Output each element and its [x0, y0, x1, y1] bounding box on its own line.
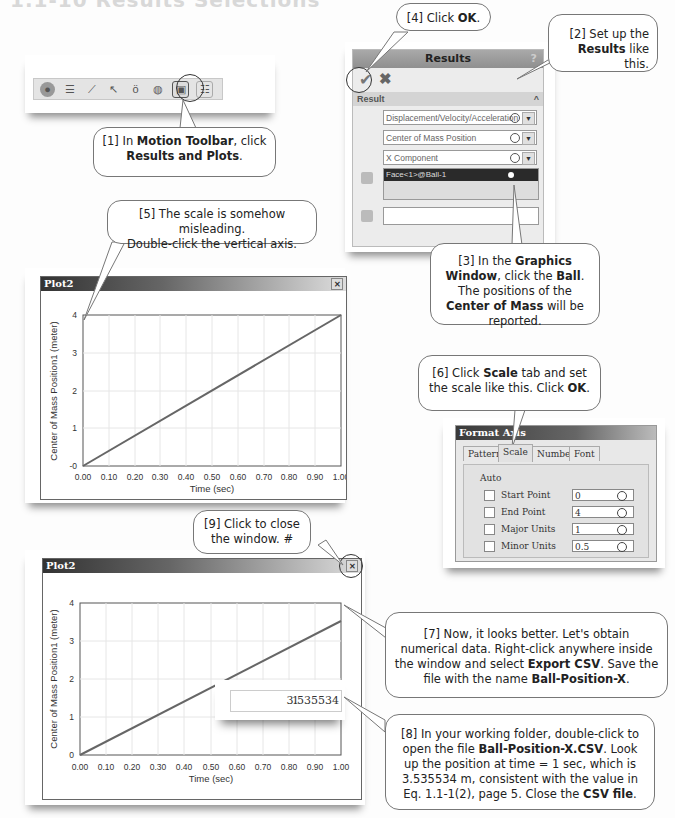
callout-step-6: [6] Click Scale tab and set the scale li…	[418, 355, 601, 411]
svg-text:1: 1	[72, 423, 77, 433]
component-select[interactable]: X Component▼	[383, 150, 537, 165]
results-title-bar: Results?	[353, 50, 543, 68]
svg-text:0.90: 0.90	[307, 472, 324, 482]
gravity-icon[interactable]: ӧ	[128, 82, 143, 97]
csv-row: 1 3.535534	[230, 690, 342, 712]
close-highlight-circle	[339, 554, 363, 578]
close-icon[interactable]: ✕	[331, 278, 343, 290]
svg-text:0.20: 0.20	[127, 472, 144, 482]
svg-text:2: 2	[72, 386, 77, 396]
motor-icon[interactable]: ◍	[150, 82, 165, 97]
svg-text:Center of Mass Position1 (mete: Center of Mass Position1 (meter)	[48, 321, 59, 460]
subcategory-select[interactable]: Center of Mass Position▼	[383, 130, 537, 145]
tab-scale[interactable]: Scale	[498, 444, 533, 462]
chevron-down-icon[interactable]: ▼	[522, 152, 535, 165]
callout-step-5: [5] The scale is somehow misleading.Doub…	[107, 200, 317, 244]
svg-text:4: 4	[69, 598, 74, 608]
svg-text:Center of Mass Position1 (mete: Center of Mass Position1 (meter)	[48, 609, 59, 748]
start-point-input[interactable]: 0	[572, 489, 634, 501]
help-icon[interactable]: ?	[531, 50, 537, 68]
svg-text:0.00: 0.00	[72, 762, 89, 772]
svg-text:0.80: 0.80	[281, 472, 298, 482]
svg-text:Time (sec): Time (sec)	[190, 483, 235, 494]
section-heading: 1.1-10 Results Selections	[10, 0, 320, 12]
major-units-checkbox[interactable]: Major Units	[484, 523, 555, 535]
svg-text:0.50: 0.50	[203, 762, 220, 772]
end-point-input[interactable]: 4	[572, 506, 634, 518]
svg-text:3: 3	[72, 348, 77, 358]
svg-text:0.60: 0.60	[230, 472, 247, 482]
chevron-down-icon[interactable]: ▼	[522, 112, 535, 125]
highlight-circle	[176, 74, 204, 102]
results-property-manager: Results? ✔ ✖ Result^ Displacement/Veloci…	[352, 49, 544, 247]
motion-study-icon[interactable]: ●	[40, 82, 55, 97]
start-point-checkbox[interactable]: Start Point	[484, 489, 550, 501]
svg-text:1: 1	[69, 712, 74, 722]
category-select[interactable]: Displacement/Velocity/Acceleration▼	[383, 110, 537, 125]
plot-title-bar: Plot2✕	[41, 277, 346, 291]
reference-selection-icon	[361, 210, 373, 222]
entity-selection-box[interactable]: Face<1>@Ball-1	[383, 168, 539, 200]
svg-text:0: 0	[69, 750, 74, 760]
svg-text:0.60: 0.60	[229, 762, 246, 772]
result-section-header[interactable]: Result^	[353, 92, 543, 106]
plot-window-1[interactable]: Plot2✕ -0 1 2 3 4 0.000.100.200.300.400.…	[40, 276, 347, 500]
callout-step-8: [8] In your working folder, double-click…	[385, 714, 655, 810]
plot-window-2[interactable]: Plot2✕ 0 1 2 3 4 0.000.100.200.300.400.5…	[42, 558, 362, 800]
contact-icon[interactable]: ☰	[62, 82, 77, 97]
auto-label: Auto	[480, 473, 501, 483]
spring-icon[interactable]: ⟋	[84, 82, 99, 97]
svg-text:0.30: 0.30	[150, 762, 167, 772]
end-point-checkbox[interactable]: End Point	[484, 506, 545, 518]
callout-step-3: [3] In the Graphics Window, click the Ba…	[430, 243, 600, 325]
csv-excerpt: 1 3.535534	[215, 680, 345, 720]
chevron-down-icon[interactable]: ▼	[522, 132, 535, 145]
svg-text:0.70: 0.70	[255, 762, 272, 772]
dialog-title: Format Axis	[456, 426, 656, 440]
reference-entity-box[interactable]	[383, 207, 539, 225]
format-axis-dialog: Format Axis Pattern Scale Number Font Au…	[455, 425, 657, 562]
callout-step-4: [4] Click OK.	[396, 3, 491, 31]
plot-1-chart[interactable]: -0 1 2 3 4 0.000.100.200.300.400.500.600…	[41, 291, 346, 499]
plot-title-bar: Plot2✕	[43, 559, 361, 573]
face-selection-icon	[361, 172, 373, 184]
callout-step-9: [9] Click to close the window. #	[193, 510, 311, 554]
minor-units-checkbox[interactable]: Minor Units	[484, 540, 556, 552]
svg-text:-0: -0	[69, 461, 77, 471]
svg-text:Time (sec): Time (sec)	[189, 773, 234, 784]
cancel-button[interactable]: ✖	[379, 70, 392, 88]
svg-text:4: 4	[72, 310, 77, 320]
ok-highlight-circle	[346, 67, 372, 93]
svg-text:3: 3	[69, 636, 74, 646]
svg-text:0.50: 0.50	[204, 472, 221, 482]
svg-text:0.80: 0.80	[281, 762, 298, 772]
svg-text:1.00: 1.00	[333, 472, 346, 482]
svg-text:0.30: 0.30	[152, 472, 169, 482]
tutorial-page: 1.1-10 Results Selections ● ☰ ⟋ ↖ ӧ ◍ ▣ …	[0, 0, 675, 818]
selected-entity[interactable]: Face<1>@Ball-1	[384, 169, 538, 181]
minor-units-input[interactable]: 0.5	[572, 540, 634, 552]
force-icon[interactable]: ↖	[106, 82, 121, 97]
svg-text:0.00: 0.00	[75, 472, 92, 482]
callout-step-7: [7] Now, it looks better. Let's obtain n…	[385, 612, 668, 698]
svg-text:0.70: 0.70	[256, 472, 273, 482]
svg-text:0.20: 0.20	[124, 762, 141, 772]
major-units-input[interactable]: 1	[572, 523, 634, 535]
svg-text:0.40: 0.40	[176, 762, 193, 772]
svg-text:0.40: 0.40	[178, 472, 195, 482]
svg-text:1.00: 1.00	[333, 762, 350, 772]
tab-font[interactable]: Font	[569, 446, 600, 461]
svg-text:0.10: 0.10	[101, 472, 118, 482]
svg-text:2: 2	[69, 674, 74, 684]
svg-text:0.90: 0.90	[307, 762, 324, 772]
callout-step-1: [1] In Motion Toolbar, click Results and…	[93, 127, 276, 177]
callout-step-2: [2] Set up the Results like this.	[548, 14, 658, 72]
svg-text:0.10: 0.10	[98, 762, 115, 772]
